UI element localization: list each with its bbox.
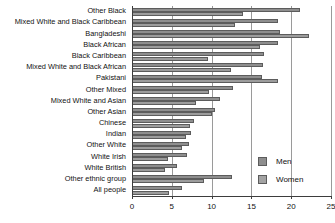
- y-axis-line: [132, 6, 133, 196]
- y-axis-label: Mixed White and Black Caribbean: [15, 18, 126, 26]
- y-axis-category-labels: Other BlackMixed White and Black Caribbe…: [0, 6, 129, 196]
- bar-row: [132, 140, 331, 151]
- bar-row: [132, 17, 331, 28]
- y-axis-label: Other White: [87, 141, 126, 149]
- y-axis-label: Mixed White and Asian: [51, 97, 126, 105]
- y-axis-label: Indian: [106, 130, 126, 138]
- x-tick-label: 20: [287, 202, 296, 211]
- bar-women: [132, 23, 235, 27]
- x-tick-mark: [132, 196, 133, 199]
- bar-women: [132, 68, 231, 72]
- bar-row: [132, 84, 331, 95]
- bar-women: [132, 79, 278, 83]
- bar-women: [132, 57, 208, 61]
- bar-women: [132, 90, 209, 94]
- legend-item-men: Men: [258, 152, 303, 170]
- x-axis-line: [132, 196, 331, 197]
- bar-row: [132, 107, 331, 118]
- x-tick-label: 10: [207, 202, 216, 211]
- bar-row: [132, 129, 331, 140]
- bar-row: [132, 28, 331, 39]
- bar-women: [132, 34, 309, 38]
- x-tick-mark: [172, 196, 173, 199]
- legend-label-men: Men: [276, 157, 292, 166]
- bar-row: [132, 51, 331, 62]
- x-tick-label: 25: [327, 202, 335, 211]
- legend-swatch-women-icon: [258, 175, 267, 184]
- y-axis-label: White Irish: [91, 153, 126, 161]
- x-tick-mark: [331, 196, 332, 199]
- bar-row: [132, 6, 331, 17]
- legend-item-women: Women: [258, 170, 303, 188]
- x-tick-label: 5: [170, 202, 174, 211]
- bar-women: [132, 157, 168, 161]
- y-axis-label: Chinese: [99, 119, 126, 127]
- y-axis-label: Black Caribbean: [72, 52, 126, 60]
- y-axis-label: Other Asian: [87, 108, 126, 116]
- bar-row: [132, 118, 331, 129]
- bar-women: [132, 124, 190, 128]
- x-axis-ticks: 0510152025: [0, 199, 335, 215]
- bar-women: [132, 45, 260, 49]
- bar-women: [132, 179, 204, 183]
- bar-women: [132, 191, 169, 195]
- bar-women: [132, 146, 182, 150]
- bar-women: [132, 135, 186, 139]
- gridline: [331, 6, 332, 196]
- y-axis-label: Other Black: [87, 7, 126, 15]
- legend: Men Women: [258, 152, 303, 188]
- bar-row: [132, 62, 331, 73]
- bar-chart: Other BlackMixed White and Black Caribbe…: [0, 0, 335, 223]
- y-axis-label: Other ethnic group: [65, 175, 126, 183]
- x-tick-label: 0: [130, 202, 134, 211]
- y-axis-label: Other Mixed: [86, 86, 126, 94]
- bar-women: [132, 168, 165, 172]
- x-tick-mark: [212, 196, 213, 199]
- y-axis-label: Black African: [83, 41, 126, 49]
- y-axis-label: White British: [85, 164, 126, 172]
- bar-women: [132, 112, 212, 116]
- x-tick-mark: [251, 196, 252, 199]
- bar-row: [132, 73, 331, 84]
- legend-swatch-men-icon: [258, 157, 267, 166]
- y-axis-label: Mixed White and Black African: [26, 63, 126, 71]
- legend-label-women: Women: [276, 175, 303, 184]
- y-axis-label: Pakistani: [96, 74, 126, 82]
- y-axis-label: Bangladeshi: [85, 30, 126, 38]
- bar-row: [132, 95, 331, 106]
- x-tick-mark: [291, 196, 292, 199]
- x-tick-label: 15: [247, 202, 256, 211]
- bar-women: [132, 101, 196, 105]
- bar-row: [132, 40, 331, 51]
- y-axis-label: All people: [94, 186, 126, 194]
- bar-women: [132, 12, 243, 16]
